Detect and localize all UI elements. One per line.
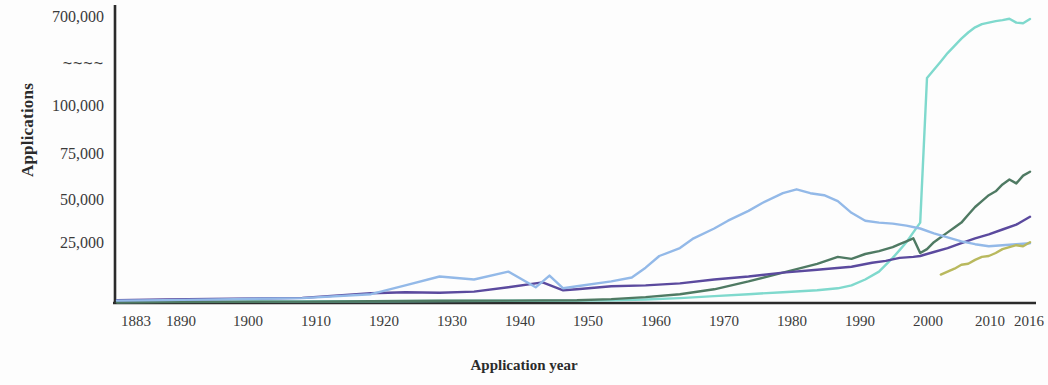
data-line-series_2: [117, 172, 1030, 303]
chart-plot-area: [0, 0, 1048, 385]
data-line-series_4: [117, 189, 1030, 300]
data-series-layer: [117, 19, 1030, 302]
data-line-series_5: [941, 242, 1030, 274]
